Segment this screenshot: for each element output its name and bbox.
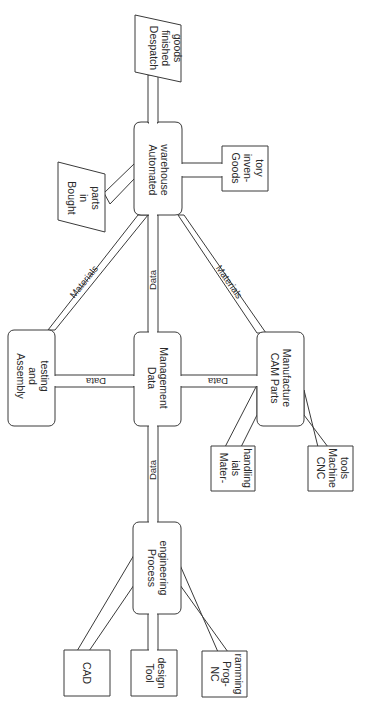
node-label-line: Assembly [15,353,27,399]
node-label-line: Bought [66,181,78,214]
connector-process-eng-cad [77,555,134,651]
node-label-line: finished [160,30,172,66]
svg-text:Data: Data [147,459,158,480]
node-label-line: CAD [81,662,93,685]
svg-text:Data: Data [207,376,228,387]
node-assembly-and-testing[interactable]: Assembly and testing [8,330,55,426]
node-label-line: handling [242,448,254,488]
connector-warehouse-despatch [148,75,158,123]
node-label-line: warehouse [159,143,171,196]
edge-label-data-bottom: Data [147,459,158,480]
node-label-line: Automated [147,145,159,196]
node-label-line: in [78,194,90,202]
node-label-line: Machine [327,448,339,488]
edge-label-materials-right: Materials [214,263,245,301]
node-label-line: parts [90,186,102,209]
node-label-line: testing [39,361,51,392]
node-automated-warehouse[interactable]: Automated warehouse [134,122,182,215]
node-label-line: Management [158,347,170,408]
edge-label-data-right: Data [207,376,228,387]
node-label-line: CAM Parts [269,353,281,404]
connector-bought-parts-warehouse [104,163,135,204]
node-label-line: ials [230,460,242,476]
node-nc-programming[interactable]: NC Prog- ramming [202,651,247,697]
connector-cam-cnc [304,390,328,447]
cim-diagram: Despatch finished goods Automated wareho… [0,0,365,701]
node-label-line: and [27,367,39,385]
node-label-line: Mater- [218,453,230,484]
node-cnc-machine-tools[interactable]: CNC Machine tools [308,446,353,491]
node-label-line: Process [146,549,158,587]
node-label-line: inven- [242,154,254,183]
edge-label-data-left: Data [85,376,106,387]
node-label-line: Data [146,367,158,389]
connector-cam-materials-handling [225,385,257,447]
node-label-line: tory [254,159,266,177]
node-tool-design[interactable]: Tool design [131,650,177,696]
node-label-line: engineering [158,541,170,596]
node-label-line: Prog- [221,661,233,687]
node-cad[interactable]: CAD [64,650,110,696]
node-materials-handling[interactable]: Mater- ials handling [211,446,255,491]
edge-label-data-top: Data [147,269,158,290]
node-process-engineering[interactable]: Process engineering [133,522,181,614]
node-despatch-finished-goods[interactable]: Despatch finished goods [135,15,184,82]
node-label-line: Goods [230,153,242,184]
node-label-line: Despatch [148,26,160,71]
svg-text:Materials: Materials [214,263,245,301]
connector-warehouse-goods-inventory [181,163,223,177]
connector-process-eng-nc-prog [180,565,228,652]
node-label-line: ramming [233,654,245,695]
svg-text:Data: Data [85,376,106,387]
node-cam-parts-manufacture[interactable]: CAM Parts Manufacture [257,332,304,426]
node-label-line: Tool [144,663,156,682]
node-label-line: goods [172,34,184,63]
node-label-line: tools [339,457,351,479]
node-label-line: Manufacture [281,349,293,408]
node-bought-in-parts[interactable]: Bought in parts [58,162,105,232]
svg-text:Data: Data [147,269,158,290]
node-goods-inventory[interactable]: Goods inven- tory [222,146,268,191]
node-data-management[interactable]: Data Management [134,332,181,426]
node-label-line: NC [209,666,221,682]
node-label-line: CNC [315,457,327,480]
node-label-line: design [156,658,168,689]
